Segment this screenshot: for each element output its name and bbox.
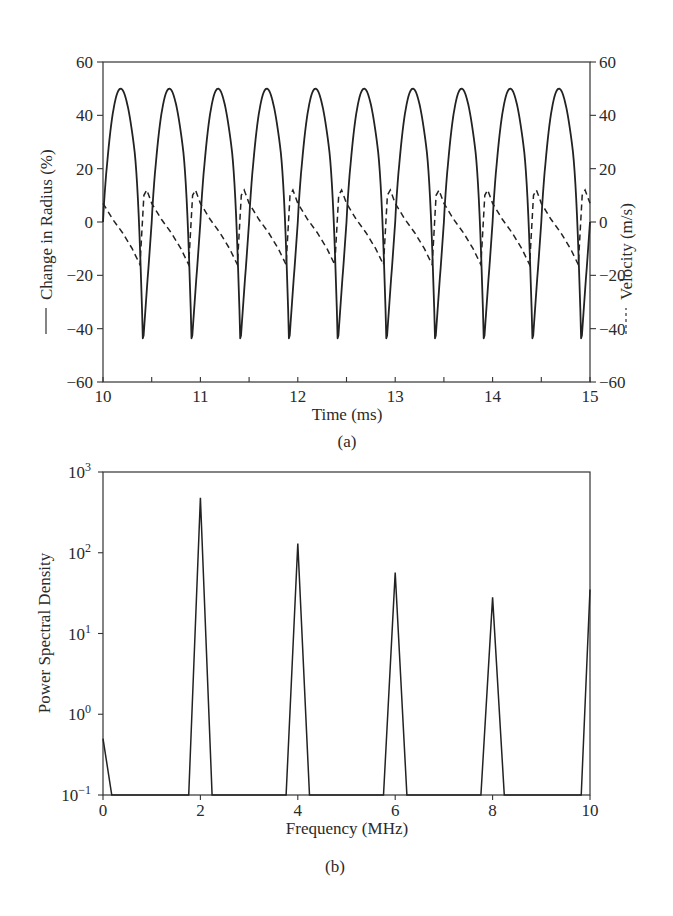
chart-b-psd-line [103, 498, 590, 795]
x-tick-label: 13 [387, 387, 404, 406]
chart-a-x-label: Time (ms) [312, 405, 383, 424]
right-y-tick-label: 40 [599, 106, 616, 125]
chart-a-caption: (a) [338, 432, 357, 451]
y-tick-label: 102 [68, 541, 91, 563]
chart-b-y-label: Power Spectral Density [35, 552, 54, 713]
y-tick-label: 100 [68, 702, 91, 724]
right-y-tick-label: −60 [599, 373, 626, 392]
x-tick-label: 11 [192, 387, 208, 406]
right-y-tick-label: 20 [599, 160, 616, 179]
x-tick-label: 2 [196, 801, 205, 820]
chart-a-left-y-label: Change in Radius (%) [37, 149, 56, 300]
left-y-tick-label: −20 [66, 266, 93, 285]
chart-a-radius-velocity: 6040200−20−40−60 6040200−20−40−60 101112… [37, 53, 636, 451]
chart-b-plot-frame [103, 472, 590, 795]
right-y-tick-label: −40 [599, 320, 626, 339]
right-y-tick-label: 60 [599, 53, 616, 72]
chart-a-right-y-label: Velocity (m/s) [617, 203, 636, 300]
x-tick-label: 0 [99, 801, 108, 820]
chart-b-x-label: Frequency (MHz) [286, 819, 408, 838]
left-y-tick-label: 0 [85, 213, 94, 232]
left-y-tick-label: 40 [76, 106, 93, 125]
left-y-tick-label: −40 [66, 320, 93, 339]
left-y-tick-label: 60 [76, 53, 93, 72]
right-y-tick-label: 0 [599, 213, 608, 232]
x-tick-label: 4 [294, 801, 303, 820]
x-tick-label: 14 [484, 387, 502, 406]
x-tick-label: 8 [488, 801, 497, 820]
left-y-tick-label: −60 [66, 373, 93, 392]
chart-b-power-spectral-density: 10310210110010−1 0246810 Frequency (MHz)… [35, 460, 599, 876]
x-tick-label: 15 [582, 387, 599, 406]
x-tick-label: 10 [582, 801, 599, 820]
chart-a-x-ticks: 101112131415 [95, 377, 599, 406]
figure: 6040200−20−40−60 6040200−20−40−60 101112… [0, 0, 673, 916]
chart-b-caption: (b) [325, 857, 345, 876]
chart-a-radius-line [103, 89, 590, 339]
chart-b-x-ticks: 0246810 [99, 795, 599, 820]
y-tick-label: 10−1 [61, 783, 91, 805]
y-tick-label: 103 [68, 460, 91, 482]
y-tick-label: 101 [68, 622, 91, 644]
x-tick-label: 6 [391, 801, 400, 820]
chart-b-y-ticks: 10310210110010−1 [61, 460, 103, 805]
chart-a-left-y-ticks: 6040200−20−40−60 [66, 53, 103, 392]
x-tick-label: 12 [289, 387, 306, 406]
left-y-tick-label: 20 [76, 160, 93, 179]
x-tick-label: 10 [95, 387, 112, 406]
